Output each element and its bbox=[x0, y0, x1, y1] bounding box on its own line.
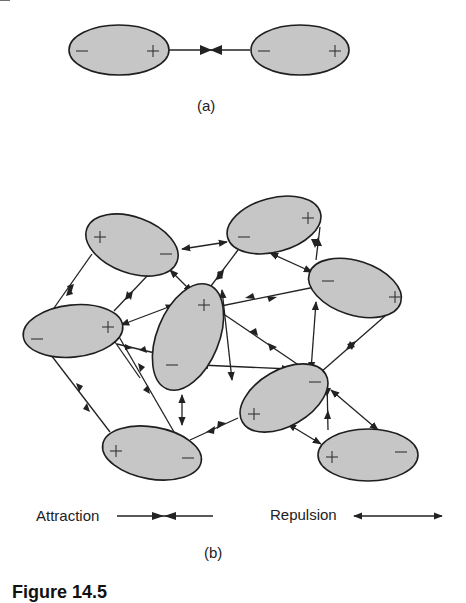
attraction-label: Attraction bbox=[36, 507, 99, 524]
panel-a bbox=[69, 25, 349, 75]
attraction-arrow-icon bbox=[117, 512, 213, 520]
molecule-b7 bbox=[98, 419, 206, 488]
molecule-a1 bbox=[69, 25, 169, 75]
panel-a-label: (a) bbox=[197, 97, 215, 114]
molecule-b3 bbox=[301, 247, 409, 328]
figure-caption: Figure 14.5 bbox=[12, 582, 107, 603]
panel-b-label: (b) bbox=[204, 544, 222, 561]
molecule-b8 bbox=[318, 429, 418, 481]
molecule-a2 bbox=[251, 25, 349, 75]
repulsion-label: Repulsion bbox=[270, 506, 337, 523]
molecule-b6 bbox=[228, 350, 339, 446]
panel-b bbox=[21, 186, 418, 487]
molecule-b1 bbox=[77, 202, 186, 287]
molecule-b4 bbox=[21, 300, 126, 362]
